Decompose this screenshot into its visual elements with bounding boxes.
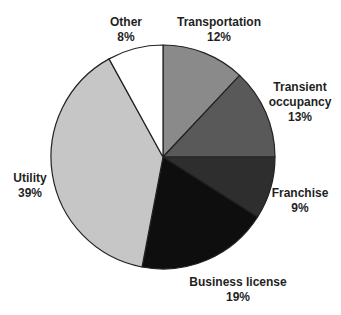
slice-percent: 13% bbox=[260, 110, 340, 125]
slice-label-utility: Utility 39% bbox=[0, 171, 60, 201]
slice-name: Transient occupancy bbox=[260, 80, 340, 110]
slice-percent: 12% bbox=[164, 30, 274, 45]
slice-name: Franchise bbox=[260, 186, 340, 201]
slice-name: Other bbox=[96, 15, 156, 30]
slice-percent: 8% bbox=[96, 30, 156, 45]
slice-name: Business license bbox=[178, 275, 298, 290]
slice-label-transient-occupancy: Transient occupancy 13% bbox=[260, 80, 340, 125]
slice-percent: 9% bbox=[260, 201, 340, 216]
slice-label-business-license: Business license 19% bbox=[178, 275, 298, 305]
slice-name: Transportation bbox=[164, 15, 274, 30]
slice-label-transportation: Transportation 12% bbox=[164, 15, 274, 45]
pie-graphic bbox=[0, 0, 341, 315]
pie-chart: Transportation 12% Transient occupancy 1… bbox=[0, 0, 341, 315]
slice-name: Utility bbox=[0, 171, 60, 186]
slice-label-franchise: Franchise 9% bbox=[260, 186, 340, 216]
slice-label-other: Other 8% bbox=[96, 15, 156, 45]
slice-percent: 39% bbox=[0, 186, 60, 201]
slice-percent: 19% bbox=[178, 290, 298, 305]
